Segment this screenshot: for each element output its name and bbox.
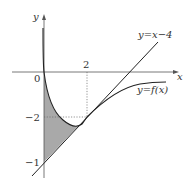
graph-diagram: y x 0 2 −2 −1 y=x−4 y=f(x) <box>0 0 191 183</box>
y-axis-arrow-icon <box>42 14 46 20</box>
x-tick-2: 2 <box>83 59 89 70</box>
y-axis-label: y <box>32 11 39 22</box>
x-axis-label: x <box>177 71 183 82</box>
y-tick-neg4: −1 <box>25 157 40 168</box>
curve-f <box>43 28 166 126</box>
curve-label: y=f(x) <box>136 84 168 95</box>
origin-label: 0 <box>34 73 40 84</box>
y-tick-neg2: −2 <box>25 112 40 123</box>
line-label: y=x−4 <box>137 29 172 40</box>
